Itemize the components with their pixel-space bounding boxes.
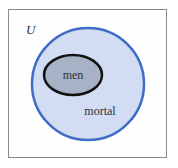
mortal-label: mortal xyxy=(84,104,116,118)
universe-label: U xyxy=(26,22,37,37)
men-label: men xyxy=(63,68,84,82)
venn-diagram: U men mortal xyxy=(0,0,178,168)
